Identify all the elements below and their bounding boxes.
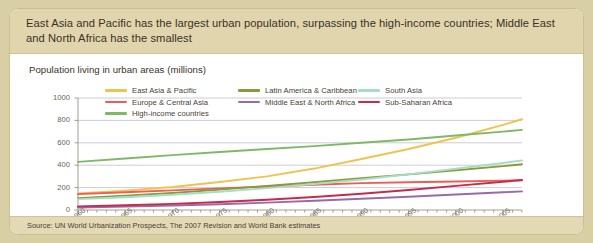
legend-label: High-income countries bbox=[132, 109, 209, 118]
y-tick-label: 1000 bbox=[40, 93, 70, 102]
y-tick-label: 400 bbox=[40, 160, 70, 169]
legend-label: Latin America & Caribbean bbox=[265, 86, 357, 95]
legend-row: Europe & Central AsiaMiddle East & North… bbox=[105, 98, 525, 110]
legend-item[interactable]: Middle East & North Africa bbox=[238, 98, 355, 107]
chart-svg bbox=[10, 54, 584, 219]
legend-swatch bbox=[238, 101, 260, 103]
legend-swatch bbox=[358, 89, 380, 91]
y-tick-label: 0 bbox=[40, 205, 70, 214]
legend-label: Europe & Central Asia bbox=[132, 98, 208, 107]
y-tick-label: 600 bbox=[40, 138, 70, 147]
figure-title: East Asia and Pacific has the largest ur… bbox=[26, 16, 567, 45]
legend-label: South Asia bbox=[385, 86, 422, 95]
legend-swatch bbox=[238, 89, 260, 91]
y-tick-label: 200 bbox=[40, 183, 70, 192]
legend-swatch bbox=[358, 101, 380, 103]
legend-swatch bbox=[105, 101, 127, 103]
series-line bbox=[78, 130, 522, 162]
y-tick-label: 800 bbox=[40, 115, 70, 124]
legend-swatch bbox=[105, 89, 127, 91]
legend-label: Sub-Saharan Africa bbox=[385, 98, 452, 107]
figure-panel: East Asia and Pacific has the largest ur… bbox=[9, 8, 584, 235]
legend-row: High-income countries bbox=[105, 109, 525, 121]
figure-body: Population living in urban areas (millio… bbox=[10, 54, 583, 219]
legend-label: Middle East & North Africa bbox=[265, 98, 355, 107]
legend-item[interactable]: Sub-Saharan Africa bbox=[358, 98, 452, 107]
legend-item[interactable]: Europe & Central Asia bbox=[105, 98, 208, 107]
legend-item[interactable]: East Asia & Pacific bbox=[105, 86, 196, 95]
source-note: Source: UN World Urbanization Prospects,… bbox=[27, 221, 320, 230]
figure-header: East Asia and Pacific has the largest ur… bbox=[10, 9, 583, 54]
figure-footer: Source: UN World Urbanization Prospects,… bbox=[10, 216, 583, 234]
legend-swatch bbox=[105, 112, 127, 114]
chart-legend: East Asia & PacificLatin America & Carib… bbox=[105, 86, 525, 121]
legend-item[interactable]: High-income countries bbox=[105, 109, 209, 118]
series-line bbox=[78, 161, 522, 200]
line-chart: 02004006008001000 1960196519701975198019… bbox=[10, 54, 584, 219]
legend-item[interactable]: South Asia bbox=[358, 86, 422, 95]
legend-row: East Asia & PacificLatin America & Carib… bbox=[105, 86, 525, 98]
legend-item[interactable]: Latin America & Caribbean bbox=[238, 86, 357, 95]
legend-label: East Asia & Pacific bbox=[132, 86, 196, 95]
